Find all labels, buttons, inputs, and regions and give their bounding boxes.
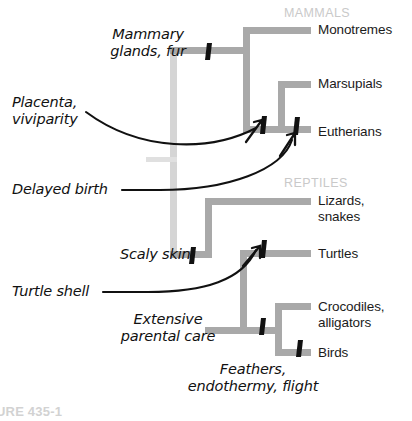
group-header-reptiles: REPTILES [284,176,348,190]
annotation-placenta-viviparity-line1: Placenta, [12,94,77,111]
taxon-label-lizards-snakes-line1: Lizards, [318,193,364,208]
annotation-extensive-parental-care-line1: Extensive [98,311,238,328]
annotation-turtle-shell: Turtle shell [12,283,89,300]
group-header-mammals: MAMMALS [284,6,350,20]
annotation-placenta-viviparity-line2: viviparity [12,111,78,128]
taxon-label-birds: Birds [318,345,348,360]
annotation-feathers-endothermy-flight-line2: endothermy, flight [153,378,353,395]
cladogram-figure: MAMMALS REPTILES Monotremes Marsupials E… [0,0,412,421]
annotation-scaly-skin: Scaly skin [120,246,190,263]
annotation-extensive-parental-care-line2: parental care [88,328,248,345]
taxon-label-monotremes: Monotremes [318,22,392,37]
taxon-label-marsupials: Marsupials [318,76,382,91]
figure-caption-partial: URE 435-1 [0,404,62,419]
taxon-label-turtles: Turtles [318,246,358,261]
leader-delayed-birth [122,140,292,190]
taxon-label-eutherians: Eutherians [318,124,382,139]
arrowhead-delayed-birth [280,133,295,156]
taxon-label-lizards-snakes-line2: snakes [318,209,360,224]
annotation-mammary-glands-fur-line1: Mammary [83,26,213,43]
annotation-mammary-glands-fur-line2: glands, fur [78,43,218,60]
taxon-label-crocodilians-line1: Crocodiles, [318,299,384,314]
tree-root-trunk [146,47,177,257]
annotation-feathers-endothermy-flight-line1: Feathers, [173,361,333,378]
annotation-delayed-birth: Delayed birth [12,181,108,198]
taxon-label-crocodilians-line2: alligators [318,315,371,330]
